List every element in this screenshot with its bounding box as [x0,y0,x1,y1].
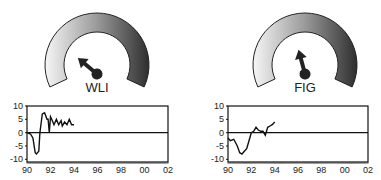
y-tick-label: -5 [216,141,224,151]
figure: WLIFIG 1050-5-10909294969800021050-5-109… [0,0,381,180]
x-tick-label: 96 [92,165,102,175]
chart-wli: 1050-5-1090929496980002 [10,101,173,175]
x-tick-label: 90 [223,165,233,175]
x-tick-label: 00 [340,165,350,175]
x-tick-label: 90 [22,165,32,175]
y-tick-label: 0 [219,128,224,138]
y-tick-label: -10 [211,154,224,164]
x-tick-label: 98 [316,165,326,175]
y-tick-label: 5 [219,114,224,124]
x-tick-label: 00 [139,165,149,175]
needle-arrow-icon [293,48,312,81]
chart-fig: 1050-5-1090929496980002 [211,101,373,175]
x-tick-label: 94 [69,165,79,175]
x-tick-label: 92 [45,165,55,175]
y-tick-label: -5 [15,141,23,151]
plot-frame [27,106,168,162]
y-tick-label: 5 [18,114,23,124]
x-tick-label: 98 [116,165,126,175]
needle-arrow-icon [74,53,105,82]
gauge-wli: WLI [45,13,149,95]
x-tick-label: 96 [293,165,303,175]
x-tick-label: 02 [363,165,373,175]
y-tick-label: 10 [13,101,23,111]
gauge-label: WLI [85,80,108,95]
x-tick-label: 94 [270,165,280,175]
x-tick-label: 92 [246,165,256,175]
x-tick-label: 02 [163,165,173,175]
plot-frame [228,106,368,162]
gauge-fig: FIG [253,13,357,95]
gauge-label: FIG [294,80,316,95]
y-tick-label: 0 [18,128,23,138]
y-tick-label: 10 [214,101,224,111]
y-tick-label: -10 [10,154,23,164]
